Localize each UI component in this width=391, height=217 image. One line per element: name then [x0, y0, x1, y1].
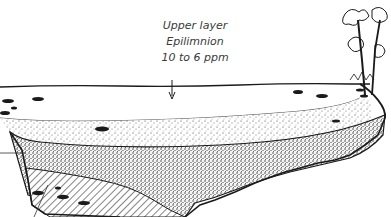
lake-cross-section-diagram: Upper layer Epilimnion 10 to 6 ppm [0, 0, 391, 217]
layer-term-label: Epilimnion [130, 34, 260, 49]
oxygen-range-label: 10 to 6 ppm [130, 50, 260, 65]
layer-name-label: Upper layer [130, 18, 260, 33]
tree-illustration [343, 7, 388, 95]
water-surface-line [0, 84, 370, 87]
